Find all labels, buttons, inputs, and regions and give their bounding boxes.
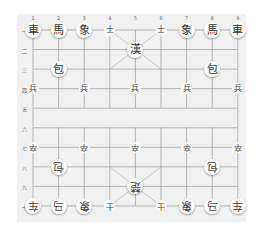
black-soldier-piece[interactable]: 兵	[181, 83, 192, 94]
row-label: 六	[22, 124, 27, 131]
row-label: 八	[22, 163, 27, 170]
piece-glyph: 士	[106, 202, 114, 210]
column-label: 3	[83, 15, 86, 21]
red-cannon-piece[interactable]: 包	[204, 159, 220, 175]
column-label: 7	[185, 15, 188, 21]
piece-glyph: 卒	[80, 143, 88, 151]
row-label: 五	[22, 105, 27, 112]
red-cannon-piece[interactable]: 包	[51, 159, 67, 175]
red-soldier-piece[interactable]: 卒	[79, 142, 90, 153]
row-label: 三	[22, 66, 27, 73]
column-label: 2	[57, 15, 60, 21]
board-grid	[0, 0, 265, 232]
row-label: 四	[22, 85, 27, 92]
column-label: 1	[31, 15, 34, 21]
piece-glyph: 包	[207, 161, 218, 172]
piece-glyph: 象	[79, 200, 90, 211]
piece-glyph: 馬	[53, 25, 64, 36]
piece-glyph: 士	[157, 202, 165, 210]
black-elephant-piece[interactable]: 象	[179, 22, 195, 38]
piece-glyph: 卒	[131, 143, 139, 151]
column-label: 6	[159, 15, 162, 21]
piece-glyph: 車	[232, 25, 243, 36]
column-label: 5	[134, 15, 137, 21]
piece-glyph: 象	[79, 25, 90, 36]
piece-glyph: 包	[207, 64, 218, 75]
black-soldier-piece[interactable]: 兵	[232, 83, 243, 94]
piece-glyph: 兵	[131, 85, 139, 93]
red-soldier-piece[interactable]: 卒	[28, 142, 39, 153]
piece-glyph: 士	[157, 26, 165, 34]
red-advisor-piece[interactable]: 士	[104, 200, 115, 211]
black-advisor-piece[interactable]: 士	[156, 25, 167, 36]
red-advisor-piece[interactable]: 士	[156, 200, 167, 211]
piece-glyph: 卒	[234, 143, 242, 151]
row-label: 九	[22, 183, 27, 190]
piece-glyph: 兵	[29, 85, 37, 93]
piece-glyph: 馬	[207, 25, 218, 36]
piece-glyph: 包	[53, 64, 64, 75]
black-advisor-piece[interactable]: 士	[104, 25, 115, 36]
red-horse-piece[interactable]: 马	[51, 198, 67, 214]
row-label: 七	[22, 144, 27, 151]
column-label: 9	[236, 15, 239, 21]
red-general-piece[interactable]: 楚	[127, 178, 143, 194]
black-soldier-piece[interactable]: 兵	[28, 83, 39, 94]
red-soldier-piece[interactable]: 卒	[232, 142, 243, 153]
red-elephant-piece[interactable]: 象	[179, 198, 195, 214]
red-chariot-piece[interactable]: 车	[25, 198, 41, 214]
piece-glyph: 士	[106, 26, 114, 34]
column-label: 8	[211, 15, 214, 21]
red-elephant-piece[interactable]: 象	[76, 198, 92, 214]
piece-glyph: 包	[53, 161, 64, 172]
black-chariot-piece[interactable]: 車	[25, 22, 41, 38]
piece-glyph: 兵	[234, 85, 242, 93]
piece-glyph: 车	[28, 200, 39, 211]
piece-glyph: 车	[232, 200, 243, 211]
piece-glyph: 兵	[183, 85, 191, 93]
piece-glyph: 卒	[183, 143, 191, 151]
piece-glyph: 漢	[130, 44, 141, 55]
piece-glyph: 象	[181, 25, 192, 36]
row-label: 二	[22, 46, 27, 53]
piece-glyph: 楚	[130, 181, 141, 192]
black-soldier-piece[interactable]: 兵	[79, 83, 90, 94]
black-general-piece[interactable]: 漢	[127, 42, 143, 58]
piece-glyph: 車	[28, 25, 39, 36]
red-chariot-piece[interactable]: 车	[230, 198, 246, 214]
piece-glyph: 马	[207, 200, 218, 211]
black-chariot-piece[interactable]: 車	[230, 22, 246, 38]
piece-glyph: 兵	[80, 85, 88, 93]
red-horse-piece[interactable]: 马	[204, 198, 220, 214]
black-soldier-piece[interactable]: 兵	[130, 83, 141, 94]
column-label: 4	[108, 15, 111, 21]
piece-glyph: 象	[181, 200, 192, 211]
piece-glyph: 卒	[29, 143, 37, 151]
black-horse-piece[interactable]: 馬	[51, 22, 67, 38]
piece-glyph: 马	[53, 200, 64, 211]
black-cannon-piece[interactable]: 包	[51, 61, 67, 77]
red-soldier-piece[interactable]: 卒	[181, 142, 192, 153]
red-soldier-piece[interactable]: 卒	[130, 142, 141, 153]
